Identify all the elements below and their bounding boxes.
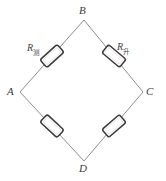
resistor-r-ab	[40, 44, 64, 67]
vertex-label-b: B	[79, 5, 86, 16]
resistor-label-r-bc-subscript: 升	[123, 48, 130, 56]
circuit-svg-canvas	[0, 0, 166, 181]
vertex-label-d: D	[79, 163, 87, 174]
resistor-label-r-ab-subscript: 测	[33, 49, 40, 57]
circuit-diagram-figure: A B C D R测 R升	[0, 0, 166, 181]
resistor-label-r-bc: R升	[117, 42, 130, 54]
vertex-label-a: A	[7, 86, 14, 97]
resistor-r-ad	[40, 114, 64, 137]
resistor-label-r-ab: R测	[27, 43, 40, 55]
vertex-label-c: C	[146, 86, 153, 97]
resistor-r-dc	[102, 115, 126, 138]
